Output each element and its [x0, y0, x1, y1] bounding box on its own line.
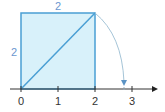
side-label-top: 2 — [55, 0, 61, 12]
axis-arrowhead-icon — [152, 86, 158, 92]
rotation-arc — [95, 13, 124, 82]
tick-label-3: 3 — [129, 95, 135, 107]
tick-label-1: 1 — [55, 95, 61, 107]
tick-label-2: 2 — [92, 95, 98, 107]
arc-arrowhead-icon — [121, 80, 127, 86]
sqrt-construction-diagram: 0 1 2 3 2 2 — [0, 0, 165, 112]
tick-label-0: 0 — [18, 95, 24, 107]
side-label-left: 2 — [11, 46, 17, 58]
